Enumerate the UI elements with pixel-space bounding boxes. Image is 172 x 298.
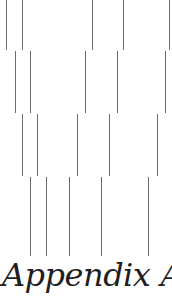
- vertical-rule-row-2: [30, 51, 31, 113]
- vertical-rule-row-4: [69, 177, 70, 256]
- vertical-rule-row-4: [46, 177, 47, 256]
- vertical-rule-row-4: [30, 177, 31, 256]
- vertical-rule-row-1: [22, 0, 23, 50]
- vertical-rule-row-1: [92, 0, 93, 50]
- vertical-rule-row-1: [123, 0, 124, 50]
- vertical-rule-row-2: [117, 51, 118, 113]
- vertical-rule-row-4: [101, 177, 102, 256]
- vertical-rule-row-2: [15, 51, 16, 113]
- vertical-rule-row-2: [165, 51, 166, 113]
- appendix-word: Appendix: [2, 256, 150, 294]
- vertical-rule-row-1: [6, 0, 7, 50]
- vertical-rule-row-3: [77, 114, 78, 176]
- vertical-rule-row-3: [109, 114, 110, 176]
- vertical-rule-row-3: [22, 114, 23, 176]
- vertical-rule-row-4: [148, 177, 149, 256]
- appendix-heading: AppendixA: [2, 255, 172, 295]
- vertical-rule-row-3: [157, 114, 158, 176]
- vertical-rule-row-3: [37, 114, 38, 176]
- appendix-letter: A: [160, 256, 172, 294]
- vertical-rule-row-2: [85, 51, 86, 113]
- vertical-rule-row-1: [169, 0, 170, 50]
